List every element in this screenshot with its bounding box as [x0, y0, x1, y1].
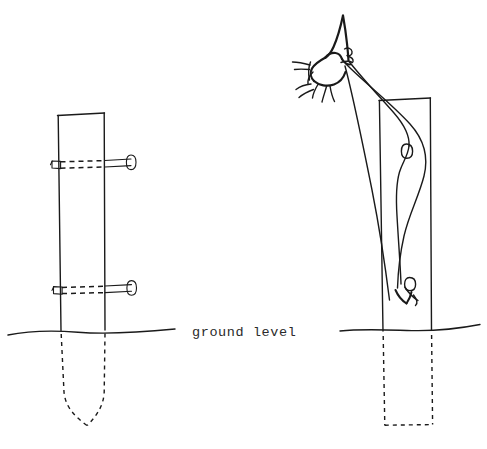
ground-line-right [340, 325, 480, 332]
fence-post-diagram: ground level [0, 0, 487, 449]
wire-loop-lower [405, 278, 418, 301]
lower-nail [52, 281, 137, 296]
hand-gripping-wire [293, 16, 354, 103]
ground-line-left [8, 329, 175, 335]
right-buried-post-flat [383, 335, 432, 426]
upper-nail [51, 155, 137, 170]
figure-root: ground level [0, 0, 487, 449]
left-panel-nailed-post [8, 113, 175, 426]
left-post-outline [58, 113, 106, 331]
right-post-outline [379, 98, 432, 331]
left-buried-post-pointed [61, 334, 105, 426]
right-panel-wire-pull [293, 16, 481, 426]
ground-level-label: ground level [192, 325, 296, 340]
wire-loop-upper [401, 144, 412, 158]
